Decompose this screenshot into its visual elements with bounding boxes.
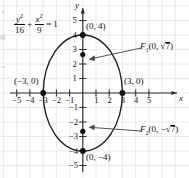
y-tick-label-neg4: −4 [69, 147, 78, 156]
equation-x-denominator: 9 [35, 25, 44, 36]
y-tick-label-5: 5 [73, 16, 77, 25]
x-tick-label-2: 2 [107, 96, 111, 105]
point-focus-1 [80, 52, 85, 57]
x-tick-label-neg5: −5 [12, 96, 21, 105]
focus-2-close-paren: ) [175, 124, 178, 134]
x-tick-label-neg4: −4 [26, 96, 35, 105]
focus-1-coords-open: (0, [149, 41, 161, 51]
focus-1-label: F1(0, √7) [140, 42, 173, 53]
f2-leader-line [93, 128, 142, 132]
equation-y-numerator: y2 [14, 14, 25, 25]
y-tick-label-neg2: −2 [69, 118, 78, 127]
x-axis-label: x [179, 94, 183, 103]
scan-artifact-mark-1 [1, 11, 5, 13]
y-tick-label-3: 3 [73, 45, 77, 54]
focus-2-coords-open: (0, − [149, 124, 166, 134]
focus-1-close-paren: ) [170, 41, 173, 51]
equation-y-exponent: 2 [20, 12, 23, 19]
y-tick-label-4: 4 [73, 31, 77, 40]
ellipse-equation: y2 16 + x2 9 = 1 [14, 14, 58, 36]
x-axis-arrow [172, 91, 178, 95]
y-tick-label-1: 1 [73, 74, 77, 83]
focus-leader-lines [93, 48, 142, 131]
f1-leader-arrow [89, 55, 95, 61]
focus-2-radical-bar [170, 125, 175, 126]
y-tick-label-neg1: −1 [69, 103, 78, 112]
point-label-bottom-vertex: (0, −4) [86, 153, 111, 162]
y-axis-label: y [75, 1, 79, 10]
focus-1-radical: √7 [161, 42, 170, 51]
y-tick-label-neg5: −5 [69, 161, 78, 170]
point-bottom-vertex [80, 148, 86, 154]
equation-x-numerator: x2 [35, 14, 44, 25]
y-tick-label-neg3: −3 [69, 132, 78, 141]
y-tick-label-2: 2 [73, 60, 77, 69]
equation-equals-one: = 1 [46, 19, 58, 29]
equation-plus-sign: + [27, 19, 32, 29]
equation-x-exponent: 2 [40, 12, 43, 19]
scan-artifact-mark-2 [0, 35, 6, 40]
point-label-left-vertex: (−3, 0) [14, 77, 39, 86]
x-tick-label-neg3: −3 [39, 96, 48, 105]
scan-artifact-mark-3 [1, 66, 5, 68]
x-tick-label-5: 5 [147, 96, 151, 105]
f2-leader-arrow [89, 125, 95, 131]
point-label-right-vertex: (3, 0) [124, 77, 144, 86]
x-tick-label-neg2: −2 [52, 96, 61, 105]
point-focus-2 [80, 129, 85, 134]
focus-2-label: F2(0, −√7) [140, 125, 178, 136]
ellipse-figure: y2 16 + x2 9 = 1 x y −5 −4 −3 −2 −1 1 2 … [0, 0, 189, 178]
equation-y-fraction: y2 16 [14, 14, 25, 36]
point-top-vertex [80, 32, 86, 38]
equation-x-fraction: x2 9 [35, 14, 44, 36]
x-tick-label-4: 4 [134, 96, 138, 105]
point-label-top-vertex: (0, 4) [86, 22, 106, 31]
x-tick-label-1: 1 [94, 96, 98, 105]
focus-1-radical-bar [165, 42, 170, 43]
focus-2-radical: √7 [166, 125, 175, 134]
equation-y-denominator: 16 [14, 25, 25, 36]
x-tick-label-3: 3 [121, 96, 125, 105]
y-axis-arrow [81, 8, 85, 13]
